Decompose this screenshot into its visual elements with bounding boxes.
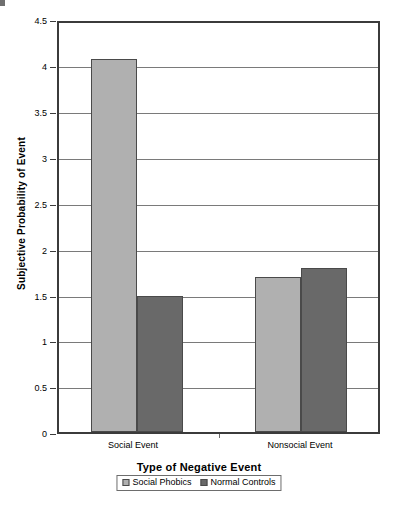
bar-chart-figure: 0 0.5 1 1.5 2 2.5 3 3.5 4 4.5 Subjective… bbox=[0, 0, 398, 511]
y-tick-label-2.5: 2.5 bbox=[34, 201, 47, 210]
y-tick-mark-0 bbox=[50, 434, 56, 435]
y-tick-mark-0.5 bbox=[50, 388, 56, 389]
plot-area bbox=[57, 21, 380, 434]
legend-label-social-phobics: Social Phobics bbox=[132, 478, 191, 487]
y-tick-label-3.5: 3.5 bbox=[34, 109, 47, 118]
y-tick-label-4: 4 bbox=[42, 63, 47, 72]
y-tick-mark-4.5 bbox=[50, 21, 56, 22]
legend-swatch-icon-normal-controls bbox=[201, 479, 208, 486]
y-tick-label-0.5: 0.5 bbox=[34, 384, 47, 393]
bar-normal-controls-nonsocial-event[interactable] bbox=[301, 268, 347, 432]
y-tick-label-1: 1 bbox=[42, 338, 47, 347]
legend-entry-social-phobics[interactable]: Social Phobics bbox=[122, 478, 191, 487]
bar-normal-controls-social-event[interactable] bbox=[137, 296, 183, 432]
bar-social-phobics-social-event[interactable] bbox=[91, 59, 137, 432]
legend-label-normal-controls: Normal Controls bbox=[211, 478, 276, 487]
legend-entry-normal-controls[interactable]: Normal Controls bbox=[201, 478, 276, 487]
x-tick-mark-center bbox=[219, 434, 220, 438]
y-tick-label-0: 0 bbox=[42, 430, 47, 439]
y-tick-label-4.5: 4.5 bbox=[34, 17, 47, 26]
y-tick-label-2: 2 bbox=[42, 247, 47, 256]
y-tick-mark-4 bbox=[50, 67, 56, 68]
y-axis-ticks: 0 0.5 1 1.5 2 2.5 3 3.5 4 4.5 bbox=[0, 0, 57, 511]
x-tick-label-nonsocial-event: Nonsocial Event bbox=[267, 440, 332, 450]
legend-swatch-icon-social-phobics bbox=[122, 479, 129, 486]
y-tick-mark-1.5 bbox=[50, 297, 56, 298]
bar-social-phobics-nonsocial-event[interactable] bbox=[255, 277, 301, 432]
x-axis-title: Type of Negative Event bbox=[0, 461, 398, 473]
bars-layer bbox=[59, 23, 378, 432]
chart-legend: Social Phobics Normal Controls bbox=[116, 475, 281, 491]
x-tick-label-social-event: Social Event bbox=[108, 440, 158, 450]
y-tick-mark-1 bbox=[50, 342, 56, 343]
y-tick-mark-2.5 bbox=[50, 205, 56, 206]
y-tick-label-3: 3 bbox=[42, 155, 47, 164]
y-tick-mark-3.5 bbox=[50, 113, 56, 114]
y-tick-mark-2 bbox=[50, 251, 56, 252]
y-tick-label-1.5: 1.5 bbox=[34, 293, 47, 302]
y-axis-title: Subjective Probability of Event bbox=[16, 114, 27, 314]
y-tick-mark-3 bbox=[50, 159, 56, 160]
